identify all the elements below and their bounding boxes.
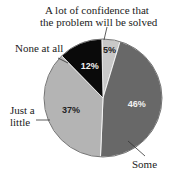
- label-a-lot-line1: A lot of confidence that: [45, 4, 149, 16]
- label-just-a-little-line1: Just a: [10, 104, 35, 116]
- leader-line: [104, 27, 107, 40]
- label-some: Some: [132, 158, 157, 170]
- slice-percent-label: 5%: [103, 45, 116, 55]
- label-none-at-all: None at all: [15, 42, 63, 54]
- label-just-a-little-line2: little: [10, 116, 30, 128]
- label-a-lot-line2: the problem will be solved: [40, 16, 157, 28]
- slice-percent-label: 12%: [81, 61, 99, 71]
- slice-percent-label: 37%: [62, 105, 80, 115]
- slice-percent-label: 46%: [128, 99, 146, 109]
